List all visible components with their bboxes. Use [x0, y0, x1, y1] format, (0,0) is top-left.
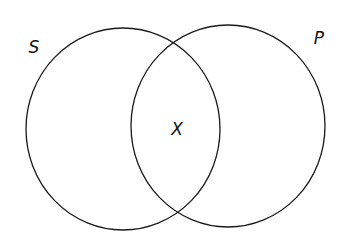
venn-diagram: S P X — [0, 0, 345, 239]
set-s-circle — [26, 28, 220, 230]
set-s-label: S — [29, 37, 40, 57]
intersection-label: X — [170, 119, 183, 139]
set-p-label: P — [314, 28, 325, 48]
set-p-circle — [131, 25, 325, 227]
